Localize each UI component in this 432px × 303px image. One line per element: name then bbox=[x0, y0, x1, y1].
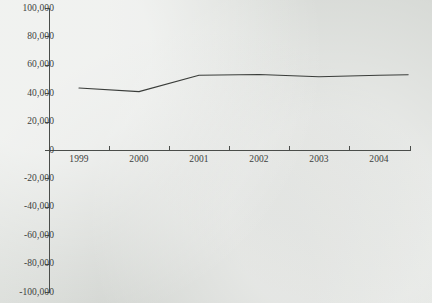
y-axis-label-minus100000: -100,000 bbox=[19, 288, 54, 298]
y-axis-label-100000: 100,000 bbox=[22, 4, 54, 14]
line-chart: 100,000 80,000 60,000 40,000 20,000 0 -2… bbox=[0, 0, 432, 303]
chart-canvas bbox=[0, 0, 432, 303]
x-axis-label-1999: 1999 bbox=[69, 155, 88, 165]
y-axis-label-minus60000: -60,000 bbox=[24, 231, 54, 241]
x-axis-label-2003: 2003 bbox=[309, 155, 328, 165]
y-axis-label-minus20000: -20,000 bbox=[24, 174, 54, 184]
series-line-1 bbox=[79, 75, 408, 92]
x-axis-label-2004: 2004 bbox=[369, 155, 388, 165]
chart-page: 100,000 80,000 60,000 40,000 20,000 0 -2… bbox=[0, 0, 432, 303]
x-axis-label-2002: 2002 bbox=[249, 155, 268, 165]
y-axis-label-40000: 40,000 bbox=[27, 89, 54, 99]
x-axis-ticks bbox=[50, 146, 411, 151]
y-axis-label-minus40000: -40,000 bbox=[24, 203, 54, 213]
y-axis-label-80000: 80,000 bbox=[27, 32, 54, 42]
y-axis-label-0: 0 bbox=[49, 146, 54, 156]
y-axis-label-60000: 60,000 bbox=[27, 61, 54, 71]
x-axis-label-2001: 2001 bbox=[189, 155, 208, 165]
y-axis-label-20000: 20,000 bbox=[27, 117, 54, 127]
x-axis-label-2000: 2000 bbox=[129, 155, 148, 165]
y-axis-label-minus80000: -80,000 bbox=[24, 259, 54, 269]
